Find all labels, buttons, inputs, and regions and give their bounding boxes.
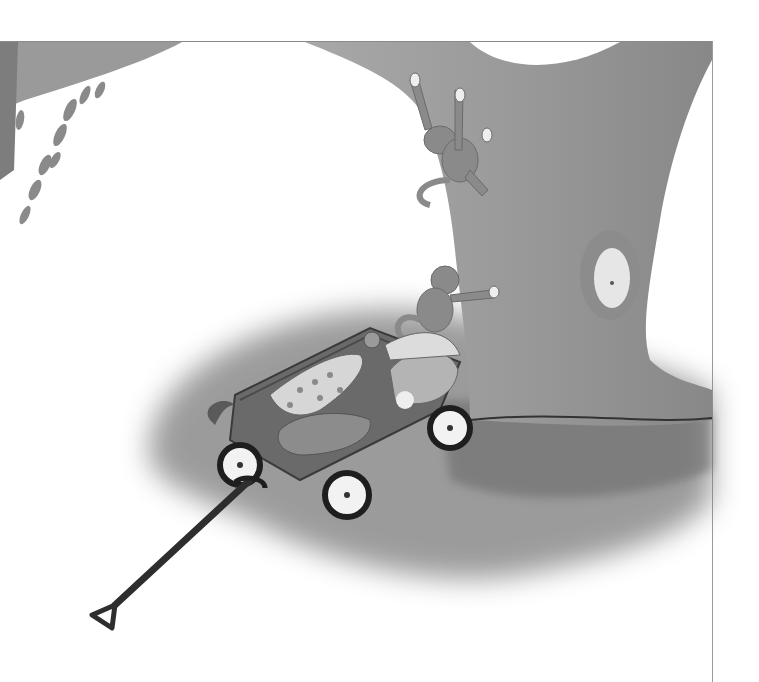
leaf-clusters-left [14, 80, 107, 226]
knot-hole [580, 230, 640, 320]
watercolor-scene [0, 0, 759, 682]
wheel-back-right [430, 408, 470, 448]
illustration-canvas [0, 0, 759, 682]
branch-top-left [0, 42, 182, 180]
wheel-front-right [325, 473, 369, 517]
